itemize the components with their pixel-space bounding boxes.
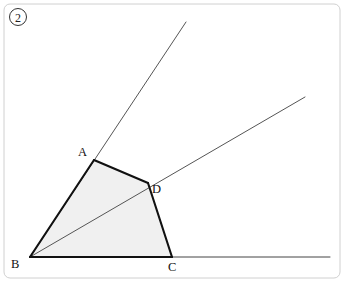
vertex-label-A: A: [78, 145, 87, 159]
vertex-label-C: C: [168, 260, 176, 274]
vertex-label-B: B: [11, 257, 19, 271]
figure-canvas: A B C D 2: [0, 0, 348, 290]
vertex-label-D: D: [152, 182, 161, 196]
problem-number-badge-label: 2: [15, 11, 21, 25]
geometry-figure: A B C D 2: [0, 0, 348, 290]
